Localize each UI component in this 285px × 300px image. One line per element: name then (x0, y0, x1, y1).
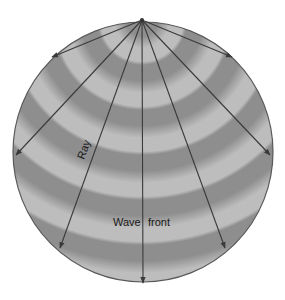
wavefront-diagram: Ray Wave front (0, 0, 285, 300)
front-label: front (148, 216, 170, 228)
source-point (140, 18, 144, 22)
wave-label: Wave (113, 216, 141, 228)
